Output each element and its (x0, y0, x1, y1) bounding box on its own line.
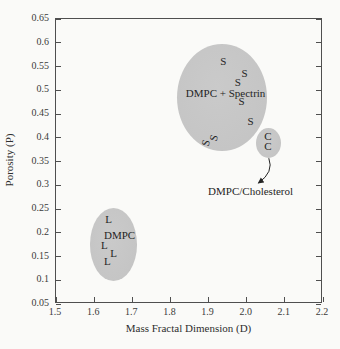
y-tick-mark (56, 232, 61, 233)
y-tick-mark (316, 304, 321, 305)
y-tick-label: 0.55 (0, 61, 49, 71)
marker-S: S (241, 67, 247, 78)
y-tick-mark (56, 42, 61, 43)
y-tick-label: 0.2 (0, 227, 49, 237)
y-tick-label: 0.1 (0, 274, 49, 284)
x-tick-mark (170, 297, 171, 302)
y-tick-mark (316, 137, 321, 138)
annotation-label: DMPC/Cholesterol (208, 185, 293, 196)
y-tick-mark (56, 256, 61, 257)
x-tick-label: 1.9 (188, 307, 228, 317)
x-tick-label: 2.1 (264, 307, 304, 317)
y-tick-mark (56, 90, 61, 91)
y-tick-mark (316, 66, 321, 67)
x-tick-label: 2.0 (226, 307, 266, 317)
y-tick-mark (56, 161, 61, 162)
x-tick-mark (56, 297, 57, 302)
x-tick-label: 2.2 (302, 307, 340, 317)
y-tick-mark (56, 66, 61, 67)
y-tick-mark (316, 19, 321, 20)
x-tick-mark (132, 297, 133, 302)
x-tick-label: 1.7 (111, 307, 151, 317)
x-tick-mark (94, 297, 95, 302)
y-tick-mark (56, 19, 61, 20)
plot-area: SSSSSSSDMPC + SpectrinLLLLDMPCCCDMPC/Cho… (55, 18, 322, 303)
y-tick-mark (316, 232, 321, 233)
x-axis-label: Mass Fractal Dimension (D) (55, 322, 322, 334)
y-tick-mark (316, 256, 321, 257)
cluster-label-dmpc-spectrin: DMPC + Spectrin (186, 87, 266, 98)
y-tick-label: 0.15 (0, 251, 49, 261)
marker-L: L (104, 256, 111, 267)
x-tick-label: 1.8 (149, 307, 189, 317)
y-tick-label: 0.35 (0, 156, 49, 166)
cluster-ellipse-dmpc (90, 208, 138, 282)
scatter-figure: Porosity (P) Mass Fractal Dimension (D) … (0, 0, 340, 349)
y-tick-mark (316, 42, 321, 43)
cluster-label-dmpc: DMPC (104, 230, 135, 241)
x-tick-label: 1.6 (73, 307, 113, 317)
y-tick-mark (56, 280, 61, 281)
y-tick-label: 0.45 (0, 108, 49, 118)
y-tick-mark (316, 114, 321, 115)
marker-S: S (220, 56, 226, 67)
y-tick-label: 0.65 (0, 13, 49, 23)
y-tick-label: 0.6 (0, 37, 49, 47)
y-tick-mark (316, 161, 321, 162)
y-tick-label: 0.4 (0, 132, 49, 142)
y-tick-mark (56, 209, 61, 210)
y-tick-mark (56, 185, 61, 186)
x-tick-mark (246, 297, 247, 302)
y-tick-mark (56, 137, 61, 138)
marker-S: S (200, 139, 212, 148)
y-tick-mark (316, 185, 321, 186)
y-tick-mark (56, 304, 61, 305)
marker-L: L (105, 214, 112, 225)
x-tick-mark (284, 297, 285, 302)
y-tick-mark (316, 90, 321, 91)
marker-L: L (110, 248, 117, 259)
marker-S: S (248, 116, 254, 127)
y-tick-mark (56, 114, 61, 115)
y-tick-mark (316, 209, 321, 210)
y-tick-label: 0.25 (0, 203, 49, 213)
x-tick-mark (323, 297, 324, 302)
y-tick-label: 0.3 (0, 179, 49, 189)
x-tick-label: 1.5 (35, 307, 75, 317)
marker-C: C (264, 140, 271, 151)
y-tick-mark (316, 280, 321, 281)
x-tick-mark (208, 297, 209, 302)
marker-L: L (101, 240, 108, 251)
y-tick-label: 0.5 (0, 84, 49, 94)
